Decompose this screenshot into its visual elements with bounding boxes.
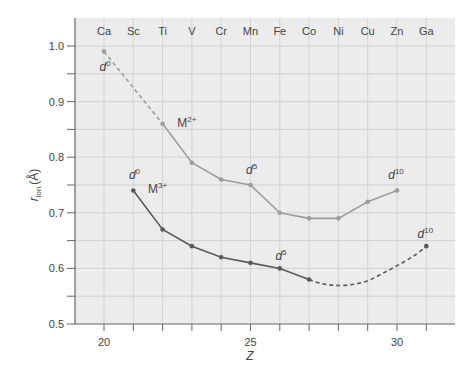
data-point bbox=[278, 266, 283, 271]
data-point bbox=[365, 199, 370, 204]
y-tick-label: 1.0 bbox=[49, 40, 64, 52]
element-label-ti: Ti bbox=[158, 25, 167, 37]
data-point bbox=[336, 216, 341, 221]
data-point bbox=[307, 216, 312, 221]
element-label-co: Co bbox=[302, 25, 316, 37]
element-label-mn: Mn bbox=[243, 25, 258, 37]
y-tick-label: 0.8 bbox=[49, 151, 64, 163]
data-point bbox=[219, 177, 224, 182]
element-label-ga: Ga bbox=[419, 25, 435, 37]
data-point bbox=[131, 188, 136, 193]
element-label-sc: Sc bbox=[127, 25, 140, 37]
element-label-cu: Cu bbox=[361, 25, 375, 37]
y-axis-title-unit: (Å) bbox=[26, 169, 41, 185]
data-point bbox=[395, 188, 400, 193]
y-tick-label: 0.5 bbox=[49, 318, 64, 330]
x-tick-label: 20 bbox=[98, 336, 110, 348]
data-point bbox=[307, 277, 312, 282]
data-point bbox=[102, 49, 107, 54]
element-label-v: V bbox=[188, 25, 196, 37]
element-label-ni: Ni bbox=[333, 25, 343, 37]
svg-text:rion(Å): rion(Å) bbox=[26, 169, 43, 202]
data-point bbox=[248, 261, 253, 266]
y-tick-label: 0.7 bbox=[49, 207, 64, 219]
ionic-radius-chart: CaScTiVCrMnFeCoNiCuZnGa 0.50.60.70.80.91… bbox=[0, 0, 475, 377]
x-tick-label: 25 bbox=[244, 336, 256, 348]
y-axis-title-sub: ion bbox=[34, 187, 43, 198]
data-point bbox=[160, 227, 165, 232]
y-tick-label: 0.9 bbox=[49, 96, 64, 108]
element-label-zn: Zn bbox=[391, 25, 404, 37]
data-point bbox=[248, 183, 253, 188]
data-point bbox=[219, 255, 224, 260]
element-label-fe: Fe bbox=[273, 25, 286, 37]
y-tick-label: 0.6 bbox=[49, 262, 64, 274]
x-tick-label: 30 bbox=[391, 336, 403, 348]
data-point bbox=[190, 244, 195, 249]
data-point bbox=[160, 122, 165, 127]
y-axis-title: rion(Å) bbox=[26, 169, 43, 202]
data-point bbox=[424, 244, 429, 249]
x-axis-title: Z bbox=[245, 349, 254, 363]
data-point bbox=[190, 160, 195, 165]
element-label-cr: Cr bbox=[215, 25, 227, 37]
element-label-ca: Ca bbox=[97, 25, 112, 37]
data-point bbox=[278, 211, 283, 216]
